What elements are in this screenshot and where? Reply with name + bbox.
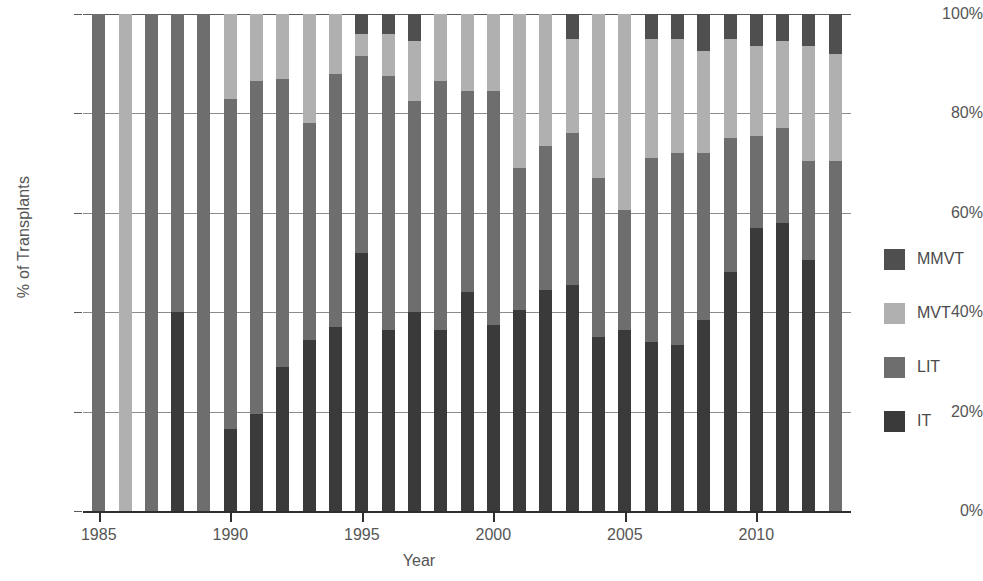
bar-2000 [487, 14, 500, 511]
bar-2005 [618, 14, 631, 511]
bar-2008 [697, 14, 710, 511]
y-tick-mark [74, 412, 82, 413]
bar-segment-LIT [408, 101, 421, 312]
bar-segment-IT [171, 312, 184, 511]
bar-segment-IT [802, 260, 815, 511]
bar-1996 [382, 14, 395, 511]
bar-1989 [197, 14, 210, 511]
bar-1994 [329, 14, 342, 511]
bar-segment-LIT [697, 153, 710, 319]
bar-segment-MVT [250, 14, 263, 81]
bar-segment-LIT [724, 138, 737, 272]
legend-swatch-mmvt [884, 249, 905, 270]
bar-segment-MVT [329, 14, 342, 74]
bar-segment-MVT [276, 14, 289, 79]
bar-segment-LIT [802, 161, 815, 260]
y-tick-label: 0% [925, 502, 983, 520]
bar-segment-LIT [92, 14, 105, 511]
legend-label-lit: LIT [917, 358, 940, 376]
legend-item-lit: LIT [884, 340, 983, 394]
bar-segment-LIT [329, 74, 342, 327]
bar-segment-LIT [592, 178, 605, 337]
stacked-bar-chart: % of Transplants Year 0%20%40%60%80%100%… [0, 0, 983, 581]
legend-item-mvt: MVT [884, 286, 983, 340]
bar-segment-IT [329, 327, 342, 511]
bar-segment-MVT [697, 51, 710, 153]
bar-segment-IT [539, 290, 552, 511]
bar-2003 [566, 14, 579, 511]
bar-segment-MMVT [750, 14, 763, 46]
bar-1991 [250, 14, 263, 511]
y-tick-mark [74, 511, 82, 512]
bar-2009 [724, 14, 737, 511]
bar-2001 [513, 14, 526, 511]
bar-segment-IT [592, 337, 605, 511]
bar-segment-LIT [145, 14, 158, 511]
bar-2012 [802, 14, 815, 511]
legend-item-mmvt: MMVT [884, 232, 983, 286]
legend-swatch-it [884, 411, 905, 432]
legend-label-it: IT [917, 412, 931, 430]
legend: MMVTMVTLITIT [884, 232, 983, 448]
y-tick-label: 60% [925, 204, 983, 222]
bar-1998 [434, 14, 447, 511]
y-tick-mark [74, 213, 82, 214]
bar-1999 [461, 14, 474, 511]
bar-segment-LIT [355, 56, 368, 252]
bar-segment-MVT [408, 41, 421, 101]
bar-segment-LIT [618, 210, 631, 329]
bar-segment-IT [224, 429, 237, 511]
bar-segment-MVT [303, 14, 316, 123]
bar-segment-MMVT [671, 14, 684, 39]
x-tick-mark [493, 513, 495, 522]
bar-2002 [539, 14, 552, 511]
bar-2013 [829, 14, 842, 511]
bar-1997 [408, 14, 421, 511]
y-tick-label: 80% [925, 104, 983, 122]
bar-segment-MMVT [829, 14, 842, 54]
bar-segment-LIT [645, 158, 658, 342]
bar-segment-IT [697, 320, 710, 511]
bar-segment-IT [303, 340, 316, 511]
bar-segment-LIT [303, 123, 316, 339]
y-tick-mark [74, 312, 82, 313]
bar-segment-IT [250, 414, 263, 511]
bar-segment-MVT [434, 14, 447, 81]
bar-segment-MVT [487, 14, 500, 91]
bar-segment-IT [408, 312, 421, 511]
x-tick-label: 2000 [458, 526, 528, 544]
bar-segment-MMVT [697, 14, 710, 51]
bar-1990 [224, 14, 237, 511]
x-tick-mark [99, 513, 101, 522]
bar-segment-MMVT [382, 14, 395, 34]
x-tick-mark [362, 513, 364, 522]
bar-segment-MVT [750, 46, 763, 135]
bar-segment-IT [461, 292, 474, 511]
bar-segment-MVT [566, 39, 579, 133]
bar-2004 [592, 14, 605, 511]
bar-segment-MVT [119, 14, 132, 511]
bar-segment-LIT [461, 91, 474, 292]
y-axis-title: % of Transplants [15, 117, 33, 357]
legend-label-mvt: MVT [917, 304, 951, 322]
bar-segment-IT [487, 325, 500, 511]
bar-1993 [303, 14, 316, 511]
bar-segment-LIT [539, 146, 552, 290]
bar-segment-MMVT [408, 14, 421, 41]
bar-segment-IT [750, 228, 763, 511]
bar-segment-MMVT [802, 14, 815, 46]
bar-segment-LIT [250, 81, 263, 414]
bar-segment-IT [382, 330, 395, 511]
bar-segment-MVT [224, 14, 237, 98]
y-tick-mark [74, 14, 82, 15]
bar-segment-MMVT [355, 14, 368, 34]
x-tick-label: 2010 [721, 526, 791, 544]
bar-segment-MVT [645, 39, 658, 158]
bar-segment-MVT [829, 54, 842, 161]
bar-segment-MMVT [566, 14, 579, 39]
bar-segment-IT [776, 223, 789, 511]
x-tick-mark [230, 513, 232, 522]
x-tick-label: 1995 [327, 526, 397, 544]
bar-segment-IT [566, 285, 579, 511]
legend-item-it: IT [884, 394, 983, 448]
